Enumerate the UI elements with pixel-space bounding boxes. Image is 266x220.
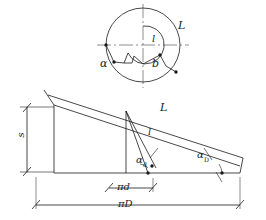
label-dimension-piD: πD — [118, 199, 133, 209]
label-helix-angle-inner: αd — [136, 155, 147, 167]
left-corner-riser — [44, 90, 54, 105]
label-dimension-pid: πd — [117, 182, 130, 192]
label-height-s: s — [16, 132, 26, 137]
hypotenuse-inner-l — [54, 105, 240, 166]
label-helix-angle-outer: αD — [197, 150, 209, 162]
label-angle-alpha: α — [100, 58, 107, 69]
notch-step-right — [160, 55, 166, 66]
dimension-s — [20, 103, 54, 176]
dimension-pid — [105, 178, 157, 192]
leader-l-dev — [150, 148, 158, 158]
technical-diagram — [0, 0, 266, 220]
dimension-piD — [32, 177, 244, 209]
dim-pid-tick-left — [105, 183, 113, 192]
label-hypotenuse-L: L — [160, 102, 167, 113]
top-circular-view — [97, 4, 189, 88]
development-view — [44, 90, 243, 182]
leader-lines — [150, 148, 222, 182]
alpha-leader — [106, 45, 124, 63]
right-corner-riser — [240, 158, 243, 173]
label-outer-circle-L: L — [178, 20, 185, 31]
label-inner-circle-l: l — [152, 34, 155, 44]
label-hypotenuse-l: l — [148, 127, 151, 137]
b-leader — [166, 66, 176, 72]
label-angle-b: b — [152, 58, 159, 69]
